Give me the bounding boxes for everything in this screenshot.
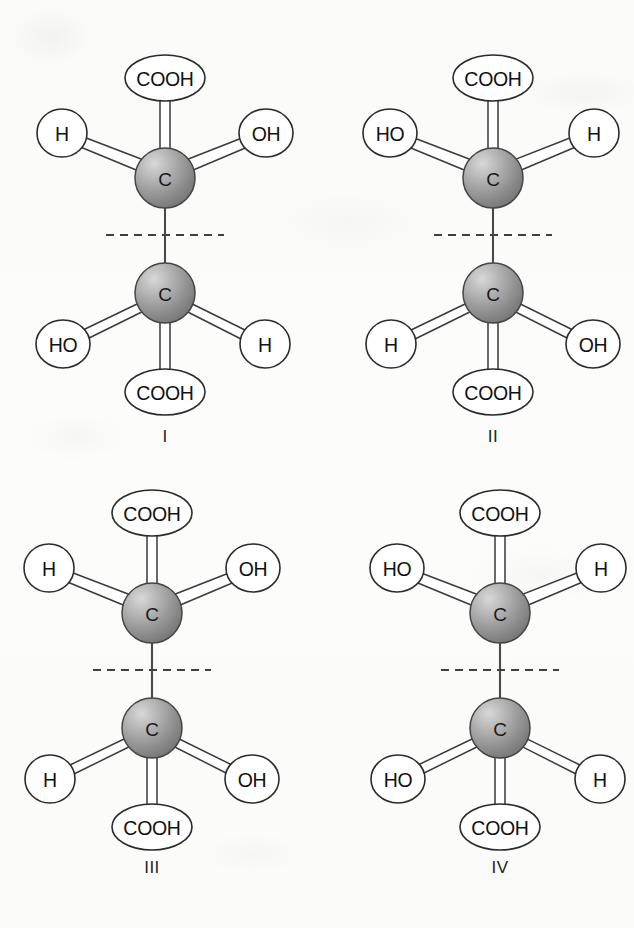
structure-label-2: II [488, 427, 498, 447]
group-label: OH [579, 334, 608, 356]
structure-2: COOH HO H C C H OH COOH [363, 55, 620, 415]
group-label: HO [384, 769, 413, 791]
atom-carbon-top-1: C [135, 148, 195, 208]
atom-label: C [145, 604, 159, 625]
atom-label: C [493, 604, 507, 625]
group-node-cooh-top-2: COOH [453, 55, 533, 101]
group-node-cooh-top-4: COOH [460, 490, 540, 536]
group-node-upper-left-2: HO [363, 109, 417, 157]
atom-label: C [158, 169, 172, 190]
group-label: H [42, 558, 56, 580]
group-node-cooh-top-1: COOH [125, 55, 205, 101]
group-node-lower-right-3: OH [225, 755, 279, 803]
atom-carbon-bottom-1: C [135, 263, 195, 323]
group-node-lower-right-2: OH [566, 320, 620, 368]
group-node-upper-left-1: H [37, 109, 87, 157]
group-label: COOH [136, 68, 193, 90]
group-label: COOH [471, 503, 528, 525]
group-label: COOH [123, 503, 180, 525]
group-node-cooh-bottom-4: COOH [460, 804, 540, 850]
group-node-lower-right-1: H [240, 320, 290, 368]
group-node-upper-right-1: OH [239, 109, 293, 157]
group-node-upper-right-4: H [576, 544, 626, 592]
atom-carbon-bottom-3: C [122, 698, 182, 758]
atom-carbon-top-3: C [122, 583, 182, 643]
group-node-lower-left-1: HO [36, 320, 90, 368]
structure-4: COOH HO H C C HO H COOH [370, 490, 626, 850]
group-node-lower-left-3: H [25, 755, 75, 803]
atom-label: C [158, 284, 172, 305]
molecule-diagram-canvas: COOH H OH C C HO H [0, 0, 634, 928]
atom-carbon-bottom-2: C [463, 263, 523, 323]
group-node-cooh-bottom-1: COOH [125, 369, 205, 415]
structure-3: COOH H OH C C H OH COOH [24, 490, 280, 850]
group-label: OH [252, 123, 281, 145]
group-node-lower-left-2: H [366, 320, 416, 368]
group-node-upper-left-3: H [24, 544, 74, 592]
group-node-upper-left-4: HO [370, 544, 424, 592]
group-label: COOH [464, 68, 521, 90]
group-label: H [587, 123, 601, 145]
group-label: COOH [464, 382, 521, 404]
atom-carbon-top-4: C [470, 583, 530, 643]
group-label: OH [239, 558, 268, 580]
group-node-lower-left-4: HO [371, 755, 425, 803]
atom-label: C [486, 169, 500, 190]
atom-label: C [486, 284, 500, 305]
group-label: H [593, 769, 607, 791]
group-label: COOH [471, 817, 528, 839]
structure-label-4: IV [491, 858, 508, 878]
group-node-cooh-bottom-2: COOH [453, 369, 533, 415]
group-label: COOH [123, 817, 180, 839]
structure-label-1: I [162, 427, 167, 447]
group-label: HO [376, 123, 405, 145]
atom-carbon-bottom-4: C [470, 698, 530, 758]
group-node-lower-right-4: H [575, 755, 625, 803]
structure-1: COOH H OH C C HO H [36, 55, 293, 415]
group-label: H [43, 769, 57, 791]
group-node-upper-right-2: H [569, 109, 619, 157]
structure-label-3: III [144, 858, 160, 878]
atom-carbon-top-2: C [463, 148, 523, 208]
group-label: H [594, 558, 608, 580]
group-label: COOH [136, 382, 193, 404]
group-label: H [384, 334, 398, 356]
group-node-cooh-bottom-3: COOH [112, 804, 192, 850]
group-label: H [258, 334, 272, 356]
group-node-cooh-top-3: COOH [112, 490, 192, 536]
atom-label: C [493, 719, 507, 740]
group-label: OH [238, 769, 267, 791]
group-label: HO [383, 558, 412, 580]
group-label: HO [49, 334, 78, 356]
atom-label: C [145, 719, 159, 740]
group-label: H [55, 123, 69, 145]
group-node-upper-right-3: OH [226, 544, 280, 592]
